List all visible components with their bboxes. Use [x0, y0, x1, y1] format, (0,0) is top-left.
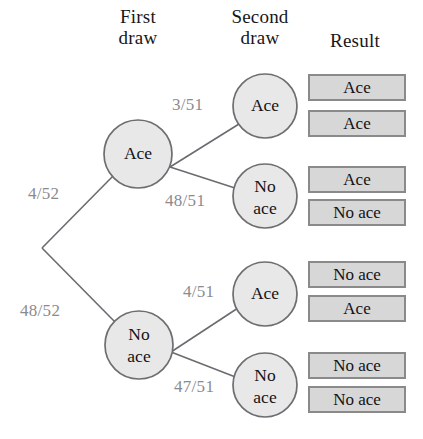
edge-label-ace-to-ace: 3/51: [172, 95, 203, 115]
node-second-draw-noace-bottom-line1: No: [254, 365, 276, 385]
result-box-outcome2-second: No ace: [308, 199, 406, 226]
edge-noace-to-noace: [171, 352, 238, 378]
node-first-draw-ace-label: Ace: [124, 143, 152, 163]
node-second-draw-ace-top-label: Ace: [251, 95, 279, 115]
result-box-outcome4-second: No ace: [308, 386, 406, 413]
node-second-draw-noace-bottom-line2: ace: [253, 387, 277, 407]
edge-label-noace-to-ace: 4/51: [183, 282, 214, 302]
edge-noace-to-ace: [171, 308, 238, 352]
result-box-outcome1-second: Ace: [308, 110, 406, 137]
edge-label-noace-to-noace: 47/51: [174, 377, 214, 397]
node-second-draw-ace-bottom-label: Ace: [251, 283, 279, 303]
node-second-draw-noace-upper-line1: No: [254, 176, 276, 196]
result-box-outcome1-first: Ace: [308, 74, 406, 101]
edge-ace-to-ace: [170, 124, 239, 167]
node-first-draw-noace-label-line2: ace: [127, 346, 151, 366]
node-second-draw-noace-upper-line2: ace: [253, 198, 277, 218]
edge-label-root-to-noace: 48/52: [20, 301, 60, 321]
result-box-outcome2-first: Ace: [308, 166, 406, 193]
tree-nodes: Ace No ace Ace No ace Ace No ace: [104, 74, 297, 417]
edge-ace-to-noace: [170, 167, 238, 189]
result-box-outcome4-first: No ace: [308, 352, 406, 379]
edge-label-ace-to-noace: 48/51: [165, 191, 205, 211]
result-box-outcome3-second: Ace: [308, 295, 406, 322]
probability-tree-diagram: First draw Second draw Result Ace No ace: [0, 0, 423, 439]
result-box-outcome3-first: No ace: [308, 261, 406, 288]
edge-label-root-to-ace: 4/52: [28, 184, 59, 204]
node-first-draw-noace-label-line1: No: [128, 324, 150, 344]
node-first-draw-noace: [105, 311, 173, 379]
